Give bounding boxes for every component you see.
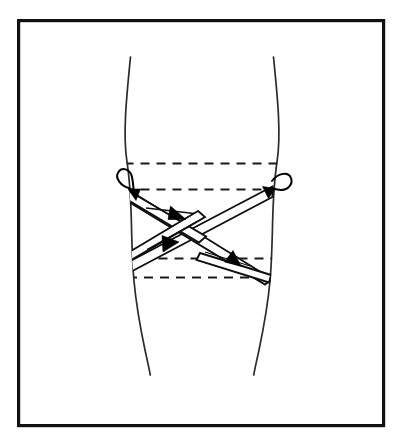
knee-bandage-diagram: Figure-eight knee bandage wrap diagram xyxy=(0,0,404,441)
figure-container: Figure-eight knee bandage wrap diagram xyxy=(0,0,404,441)
